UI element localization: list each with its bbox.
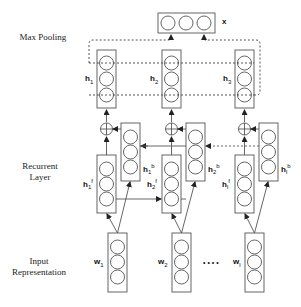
h2-vector [162, 50, 181, 108]
output-x-label: x [222, 17, 226, 26]
w2-vector [172, 233, 191, 292]
input-representation-label: Input Representation [8, 256, 70, 278]
ellipsis: • • • • [203, 259, 219, 266]
h2b-label: h2b [208, 163, 220, 175]
h3-label: h3 [223, 74, 231, 85]
concat-op-1 [101, 123, 113, 135]
h1-vector [97, 50, 116, 108]
h2-label: h2 [150, 74, 158, 85]
h1f-vector [97, 155, 116, 213]
hlf-label: hlf [222, 178, 230, 190]
h3-vector [235, 50, 254, 108]
concat-op-2 [166, 123, 178, 135]
max-pooling-label: Max Pooling [18, 32, 68, 43]
w2-label: w2 [158, 257, 168, 268]
h1b-vector [121, 123, 140, 181]
wl-vector [245, 233, 264, 292]
h1b-label: h1b [143, 163, 155, 175]
h1f-label: h1f [83, 178, 93, 190]
concat-op-3 [239, 123, 251, 135]
h2f-label: h2f [147, 178, 157, 190]
recurrent-layer-label: Recurrent Layer [14, 161, 66, 183]
hlf-vector [235, 155, 254, 213]
w1-label: w1 [94, 257, 104, 268]
h2b-vector [186, 123, 205, 181]
wl-label: wl [233, 257, 241, 268]
w1-vector [108, 233, 127, 292]
h1-label: h1 [85, 74, 93, 85]
output-vector-x [158, 13, 215, 33]
hlb-vector [259, 123, 278, 181]
h2f-vector [162, 155, 181, 213]
hlb-label: hlb [281, 163, 291, 175]
max-pooling-connections [89, 35, 260, 95]
